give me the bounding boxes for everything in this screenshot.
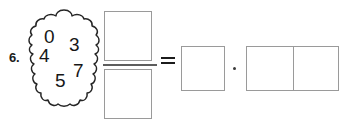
equals-sign [161, 56, 175, 66]
digit-cloud-group: 0 3 4 7 5 [27, 8, 101, 108]
pair-answer-box [246, 46, 339, 91]
fraction-group [103, 11, 159, 119]
numerator-answer-box[interactable] [104, 11, 152, 61]
equals-bar-top [161, 57, 175, 59]
digit-seven: 7 [73, 61, 84, 80]
denominator-answer-box[interactable] [104, 69, 152, 119]
fraction-bar [103, 64, 157, 66]
digit-four: 4 [39, 46, 50, 65]
pair-cell-right[interactable] [293, 47, 339, 90]
multiplication-dot [233, 67, 236, 70]
digit-five: 5 [55, 71, 66, 90]
result-answer-box[interactable] [181, 46, 225, 91]
equals-bar-bottom [161, 62, 175, 64]
worksheet-problem-canvas: 6. 0 3 4 7 5 [0, 0, 346, 131]
problem-number-label: 6. [9, 51, 19, 64]
pair-cell-left[interactable] [247, 47, 293, 90]
digit-zero: 0 [44, 27, 55, 46]
digit-three: 3 [69, 35, 80, 54]
